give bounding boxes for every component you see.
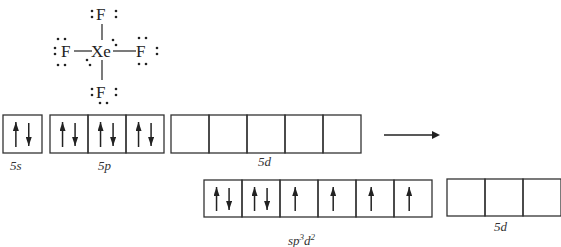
orbital-box [50,115,88,153]
orbital-box [209,115,247,153]
orbital-box [485,179,523,216]
orbital-box [285,115,323,153]
orbital-box [171,115,209,153]
orbital-group-5d [171,115,361,153]
orbital-box [356,180,394,217]
orbital-box [523,179,561,216]
orbital-box [204,180,242,217]
ground-state-orbitals [3,115,361,153]
atom-f-left: F [61,42,70,61]
orbital-box [394,180,432,217]
lewis-structure: Xe F F F F [54,5,159,104]
atom-xe: Xe [91,42,111,61]
orbital-box [247,115,285,153]
orbital-box [88,115,126,153]
orbital-label-sp3d2: sp3d2 [288,232,316,247]
orbital-group-5d-remaining [447,179,561,216]
orbital-box [242,180,280,217]
orbital-box [126,115,164,153]
orbital-label-5d-right: 5d [494,219,508,234]
atom-f-right: F [136,42,145,61]
atom-f-top: F [96,5,105,24]
orbital-label-5s: 5s [10,158,22,173]
orbital-group-5p [50,115,164,153]
atom-f-bottom: F [96,83,105,102]
orbital-box [323,115,361,153]
orbital-box [447,179,485,216]
orbital-group-sp3d2 [204,180,432,217]
orbital-box [3,115,42,153]
hybrid-state-orbitals [204,179,561,217]
orbital-group-5s [3,115,42,153]
xef4-hybridization-diagram: Xe F F F F 5s 5p 5d [0,0,561,247]
orbital-label-5p: 5p [98,158,112,173]
orbital-box [280,180,318,217]
orbital-label-5d: 5d [258,154,272,169]
orbital-box [318,180,356,217]
